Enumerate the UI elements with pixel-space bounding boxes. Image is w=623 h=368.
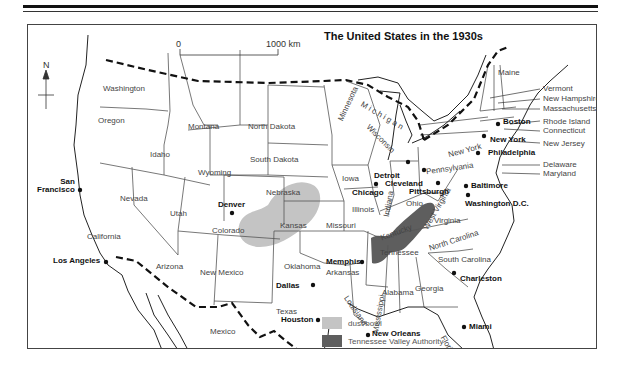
state-nebraska: Nebraska [266, 189, 300, 197]
city-denver: Denver [218, 201, 245, 209]
state-iowa: Iowa [342, 175, 359, 183]
city-houston: Houston [281, 316, 313, 324]
state-arkansas: Arkansas [326, 269, 359, 277]
header-rule-thin [23, 11, 598, 12]
map-title: The United States in the 1930s [324, 30, 483, 42]
callout-new-hampshire: New Hampshire [543, 95, 597, 103]
city-washington-dc: Washington D.C. [465, 200, 529, 208]
legend-label-tva: Tennessee Valley Authority [348, 337, 443, 346]
map-frame: The United States in the 1930s 0 1000 km… [27, 24, 597, 349]
callout-connecticut: Connecticut [543, 127, 585, 135]
state-maine: Maine [498, 69, 520, 77]
compass-arrow [38, 70, 54, 109]
city-los-angeles: Los Angeles [53, 257, 100, 265]
state-south-carolina: South Carolina [438, 256, 491, 264]
city-boston: Boston [503, 118, 531, 126]
state-montana: Montana [188, 123, 219, 131]
city-baltimore: Baltimore [471, 182, 508, 190]
state-new-mexico: New Mexico [200, 269, 244, 277]
callout-maryland: Maryland [543, 170, 576, 178]
state-kansas: Kansas [280, 222, 307, 230]
state-nevada: Nevada [120, 195, 148, 203]
state-ohio: Ohio [406, 200, 423, 208]
state-north-dakota: North Dakota [248, 123, 295, 131]
callout-rhode-island: Rhode Island [543, 118, 590, 126]
state-washington: Washington [103, 85, 145, 93]
state-virginia: Virginia [434, 217, 461, 225]
state-oklahoma: Oklahoma [284, 263, 320, 271]
legend-swatch-dust-bowl [322, 317, 342, 329]
scale-start: 0 [176, 39, 181, 49]
state-georgia: Georgia [415, 285, 443, 293]
state-missouri: Missouri [326, 222, 356, 230]
state-alabama: Alabama [382, 289, 414, 297]
city-new-york: New York [490, 136, 526, 144]
city-memphis: Memphis [326, 258, 361, 266]
callout-delaware: Delaware [543, 161, 577, 169]
state-oregon: Oregon [98, 117, 125, 125]
state-colorado: Colorado [212, 227, 244, 235]
city-philadelphia: Philadelphia [488, 149, 535, 157]
state-tennessee: Tennessee [380, 249, 419, 257]
city-chicago: Chicago [352, 189, 384, 197]
legend-swatch-tva [322, 335, 342, 347]
state-california: California [87, 233, 121, 241]
callout-new-jersey: New Jersey [543, 140, 585, 148]
state-arizona: Arizona [156, 263, 183, 271]
callout-massachusetts: Massachusetts [543, 105, 596, 113]
city-san-francisco: San Francisco [37, 178, 75, 195]
city-charleston: Charleston [460, 275, 502, 283]
state-utah: Utah [170, 210, 187, 218]
header-rule-thick [23, 5, 598, 8]
scale-bar [180, 49, 278, 55]
scale-end: 1000 km [266, 39, 301, 49]
state-illinois: Illinois [352, 206, 374, 214]
city-dallas: Dallas [276, 282, 300, 290]
state-south-dakota: South Dakota [250, 156, 298, 164]
city-miami: Miami [469, 323, 492, 331]
city-pittsburgh: Pittsburgh [409, 188, 449, 196]
state-idaho: Idaho [150, 151, 170, 159]
compass-north: N [43, 60, 50, 70]
state-wyoming: Wyoming [198, 169, 231, 177]
legend-label-dust-bowl: dust bowl [348, 319, 382, 328]
callout-vermont: Vermont [543, 85, 573, 93]
country-mexico: Mexico [210, 328, 235, 336]
